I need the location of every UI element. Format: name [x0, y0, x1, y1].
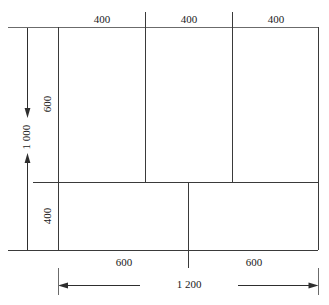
overall-width-arrow-right — [309, 283, 319, 289]
left-dimension-label-600: 600 — [41, 95, 53, 112]
left-dimension-label-400: 400 — [41, 207, 53, 224]
engineering-drawing: 400 400 400 1 000 600 400 600 600 1 200 — [0, 0, 329, 305]
bottom-dimension-label-1: 600 — [116, 256, 133, 268]
overall-height-arrow-up — [25, 153, 31, 163]
overall-height-arrow-down — [25, 108, 31, 118]
top-dimension-label-2: 400 — [181, 13, 198, 25]
top-dimension-label-3: 400 — [268, 13, 285, 25]
top-dimension-label-1: 400 — [94, 13, 111, 25]
overall-height-label: 1 000 — [20, 124, 32, 149]
overall-width-arrow-left — [58, 283, 68, 289]
overall-width-label: 1 200 — [177, 278, 202, 290]
drawing-canvas: 400 400 400 1 000 600 400 600 600 1 200 — [0, 0, 329, 305]
bottom-dimension-label-2: 600 — [246, 256, 263, 268]
